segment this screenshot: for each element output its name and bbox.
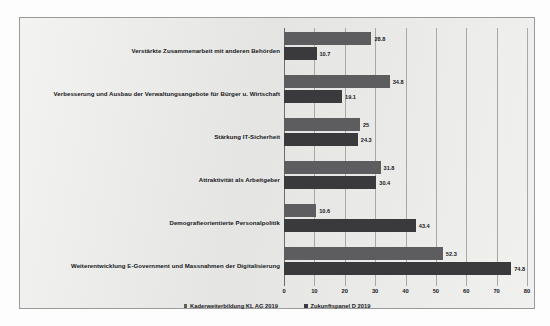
bar-value-label: 28.8	[374, 36, 385, 42]
chart-row: Verbesserung und Ausbau der Verwaltungsa…	[284, 71, 527, 114]
chart-row: Stärkung IT-Sicherheit2524.3	[284, 114, 527, 157]
x-axis-tick-label: 80	[524, 288, 530, 294]
bar-kaderweiterbildung: 52.3	[284, 247, 443, 260]
bar-value-label: 10.7	[320, 51, 331, 57]
category-label: Attraktivität als Arbeitgeber	[199, 175, 280, 182]
x-axis-tick-label: 30	[372, 288, 378, 294]
x-axis-tick-label: 40	[402, 288, 408, 294]
category-label: Demografieorientierte Personalpolitik	[169, 218, 280, 225]
legend-item: Kaderweiterbildung KL AG 2019	[184, 303, 278, 309]
chart-row: Weiterentwicklung E-Government und Massn…	[284, 243, 527, 286]
bar-kaderweiterbildung: 28.8	[284, 32, 371, 45]
category-label: Weiterentwicklung E-Government und Massn…	[71, 261, 280, 268]
category-label: Verstärkte Zusammenarbeit mit anderen Be…	[131, 46, 280, 53]
bar-zukunftspanel: 19.1	[284, 90, 342, 103]
bar-value-label: 74.8	[514, 266, 525, 272]
bar-value-label: 31.8	[384, 165, 395, 171]
x-axis-tick-label: 0	[282, 288, 285, 294]
x-axis-tick-label: 10	[311, 288, 317, 294]
chart-frame: Verstärkte Zusammenarbeit mit anderen Be…	[19, 17, 535, 309]
bar-zukunftspanel: 74.8	[284, 262, 511, 275]
x-axis-tick-label: 50	[433, 288, 439, 294]
bar-zukunftspanel: 30.4	[284, 176, 376, 189]
x-axis: 01020304050607080	[284, 286, 527, 300]
bar-value-label: 25	[363, 122, 369, 128]
chart-row: Verstärkte Zusammenarbeit mit anderen Be…	[284, 28, 527, 71]
chart-row: Demografieorientierte Personalpolitik10.…	[284, 200, 527, 243]
category-label: Verbesserung und Ausbau der Verwaltungsa…	[54, 89, 280, 96]
category-label: Stärkung IT-Sicherheit	[214, 132, 280, 139]
bar-zukunftspanel: 10.7	[284, 47, 317, 60]
bar-value-label: 34.8	[393, 79, 404, 85]
bar-kaderweiterbildung: 10.6	[284, 204, 316, 217]
bar-value-label: 30.4	[379, 180, 390, 186]
legend-swatch-icon	[184, 304, 188, 308]
bar-value-label: 52.3	[446, 251, 457, 257]
bar-kaderweiterbildung: 31.8	[284, 161, 381, 174]
x-axis-tick-label: 60	[463, 288, 469, 294]
bar-kaderweiterbildung: 34.8	[284, 75, 390, 88]
bar-zukunftspanel: 24.3	[284, 133, 358, 146]
legend-label: Kaderweiterbildung KL AG 2019	[190, 303, 278, 309]
bar-value-label: 19.1	[345, 94, 356, 100]
x-axis-tick-label: 20	[342, 288, 348, 294]
bar-value-label: 43.4	[419, 223, 430, 229]
legend-label: Zukunftspanel D 2019	[311, 303, 371, 309]
scanned-page: Kader sind 20 Jahre jüngerArbeitsmarkt i…	[0, 0, 550, 326]
legend-swatch-icon	[304, 304, 308, 308]
gridline	[527, 28, 528, 286]
bar-value-label: 24.3	[361, 137, 372, 143]
bar-value-label: 10.6	[319, 208, 330, 214]
x-axis-tick-label: 70	[493, 288, 499, 294]
chart-row: Attraktivität als Arbeitgeber31.830.4	[284, 157, 527, 200]
plot-area: Verstärkte Zusammenarbeit mit anderen Be…	[284, 28, 527, 286]
bar-kaderweiterbildung: 25	[284, 118, 360, 131]
chart-legend: Kaderweiterbildung KL AG 2019Zukunftspan…	[20, 303, 534, 309]
legend-item: Zukunftspanel D 2019	[304, 303, 370, 309]
bar-zukunftspanel: 43.4	[284, 219, 416, 232]
